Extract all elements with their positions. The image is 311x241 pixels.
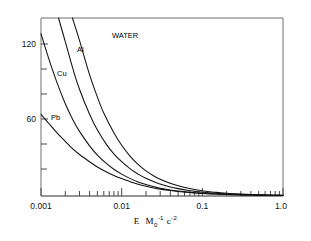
curve-label-cu: Cu — [57, 69, 67, 78]
x-axis-label: E M0-1 c-2 — [0, 215, 311, 228]
x-ticklabel-0.001: 0.001 — [30, 201, 52, 211]
curve-label-water: WATER — [112, 31, 139, 40]
x-axis-label-M-sub: 0 — [154, 222, 158, 228]
y-ticklabel-60: 60 — [27, 114, 37, 124]
curve-pb — [41, 114, 283, 195]
x-ticklabel-0.01: 0.01 — [113, 201, 130, 211]
curve-al — [59, 18, 283, 195]
curve-label-al: Al — [77, 45, 84, 54]
y-ticklabel-120: 120 — [22, 39, 36, 49]
attenuation-chart: 120 60 — [0, 0, 311, 241]
x-ticklabel-1.0: 1.0 — [275, 201, 287, 211]
curve-label-group: WATERAlCuPb — [51, 31, 139, 122]
x-axis-label-E: E — [134, 216, 140, 226]
y-axis-ticks — [41, 44, 48, 169]
x-axis-label-M: M — [145, 216, 153, 226]
x-axis-label-M-sup: -1 — [158, 215, 164, 221]
curve-water — [72, 18, 283, 195]
x-ticklabel-0.1: 0.1 — [196, 201, 208, 211]
x-axis-label-c-sup: -2 — [171, 215, 177, 221]
curve-cu — [41, 34, 283, 196]
curve-label-pb: Pb — [51, 113, 60, 122]
figure-container: 120 60 — [0, 0, 311, 241]
